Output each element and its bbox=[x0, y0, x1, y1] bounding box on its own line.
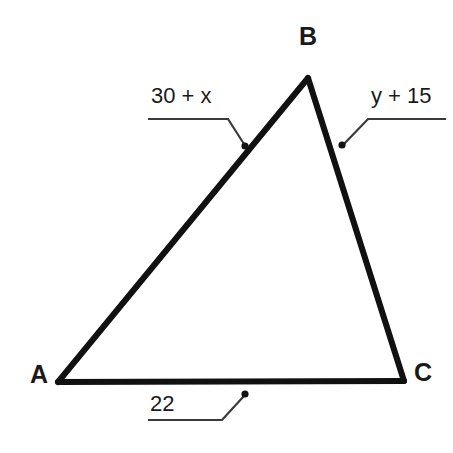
triangle-diagram-canvas bbox=[0, 0, 453, 453]
leader-dot-side-ac bbox=[241, 390, 248, 397]
side-measure-label-ab: 30 + x bbox=[151, 85, 212, 107]
leader-line-side-bc bbox=[344, 119, 446, 144]
leader-dot-side-bc bbox=[338, 141, 345, 148]
vertex-label-c: C bbox=[414, 360, 432, 385]
side-measure-label-bc: y + 15 bbox=[371, 85, 432, 107]
side-measure-label-ac: 22 bbox=[150, 393, 174, 415]
leader-line-side-ab bbox=[148, 119, 244, 144]
triangle-side-ac bbox=[58, 381, 404, 382]
vertex-label-b: B bbox=[299, 24, 317, 49]
triangle-side-bc bbox=[308, 78, 404, 381]
leader-dot-side-ab bbox=[241, 142, 248, 149]
triangle-side-ab bbox=[58, 78, 308, 382]
vertex-label-a: A bbox=[30, 362, 48, 387]
geometry-figure: A B C 30 + x y + 15 22 bbox=[0, 0, 453, 453]
